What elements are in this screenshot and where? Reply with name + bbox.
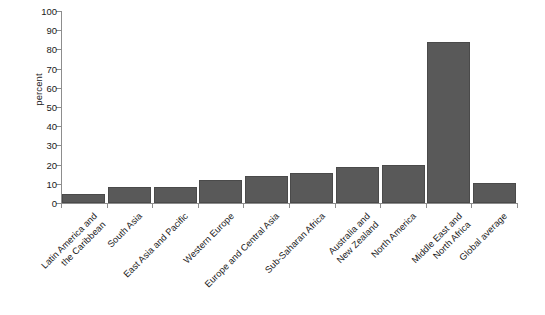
- x-axis-tick-mark: [335, 203, 336, 208]
- y-axis-tick-label: 20: [46, 159, 57, 170]
- y-axis-tick-label: 40: [46, 121, 57, 132]
- bar: [245, 176, 288, 203]
- plot-area: 0102030405060708090100: [61, 11, 517, 203]
- x-axis-tick-mark: [152, 203, 153, 208]
- y-axis-tick-label: 70: [46, 63, 57, 74]
- x-axis-tick-mark: [289, 203, 290, 208]
- x-axis-tick-mark: [380, 203, 381, 208]
- bar: [62, 194, 105, 203]
- y-axis-tick-label: 0: [52, 198, 57, 209]
- y-axis-tick-label: 60: [46, 82, 57, 93]
- x-axis-tick-mark: [61, 203, 62, 208]
- bar-chart-figure: percent 0102030405060708090100 Latin Ame…: [0, 0, 545, 315]
- x-axis-tick-mark: [471, 203, 472, 208]
- bar: [382, 165, 425, 203]
- y-axis-tick-label: 30: [46, 140, 57, 151]
- y-axis-tick-label: 10: [46, 178, 57, 189]
- bar: [473, 183, 516, 203]
- bar: [108, 187, 151, 203]
- bar: [199, 180, 242, 203]
- bar: [336, 167, 379, 203]
- x-axis-tick-mark: [107, 203, 108, 208]
- x-axis-tick-mark: [426, 203, 427, 208]
- x-axis-tick-mark: [517, 203, 518, 208]
- x-axis-tick-mark: [243, 203, 244, 208]
- bar: [290, 173, 333, 203]
- x-axis-tick-mark: [198, 203, 199, 208]
- bar: [154, 187, 197, 203]
- y-axis-tick-label: 80: [46, 44, 57, 55]
- y-axis-tick-label: 50: [46, 102, 57, 113]
- y-axis-title: percent: [33, 60, 44, 120]
- y-axis-tick-label: 90: [46, 25, 57, 36]
- y-axis-tick-label: 100: [41, 6, 57, 17]
- bar: [427, 42, 470, 203]
